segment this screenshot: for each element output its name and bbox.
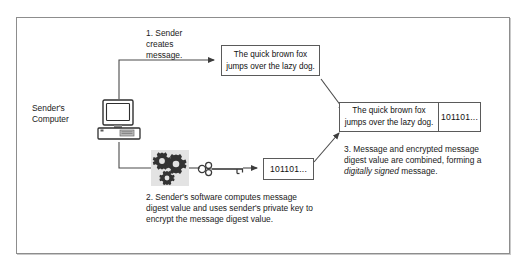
signed-message-text: The quick brown fox jumps over the lazy … — [340, 103, 439, 131]
diagram-canvas: 1. Sender creates message. The quick bro… — [0, 0, 526, 276]
step-2-caption: 2. Sender's software computes message di… — [146, 192, 314, 224]
step-3-caption: 3. Message and encrypted message digest … — [344, 144, 500, 176]
step-3-text-after: message. — [399, 166, 438, 176]
digest-box-text: 101101... — [270, 163, 307, 175]
message-box-text: The quick brown fox jumps over the lazy … — [226, 49, 315, 73]
digest-box: 101101... — [263, 158, 314, 180]
step-1-caption: 1. Sender creates message. — [146, 28, 224, 60]
desktop-computer-icon — [96, 99, 142, 141]
key-icon — [196, 160, 248, 178]
signed-message-box: The quick brown fox jumps over the lazy … — [339, 102, 481, 132]
signed-digest-text: 101101... — [439, 103, 480, 131]
gears-icon — [151, 150, 189, 186]
step-3-text-before: 3. Message and encrypted message digest … — [344, 144, 481, 165]
step-3-text-emphasis: digitally signed — [344, 166, 399, 176]
sender-computer-label: Sender's Computer — [32, 103, 90, 126]
message-box: The quick brown fox jumps over the lazy … — [221, 45, 320, 76]
